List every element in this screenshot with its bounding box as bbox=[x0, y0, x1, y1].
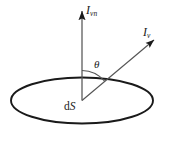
label-directional-intensity-subscript: v bbox=[147, 31, 150, 40]
label-surface-element-symbol: S bbox=[70, 100, 76, 112]
label-normal-intensity-subscript: vn bbox=[90, 9, 97, 18]
label-normal-intensity: Ivn bbox=[86, 4, 97, 18]
figure-vector-canvas bbox=[0, 0, 171, 141]
label-surface-element: dS bbox=[64, 101, 76, 113]
angle-arc bbox=[82, 71, 105, 82]
label-directional-intensity: Iv bbox=[143, 26, 150, 40]
physics-figure-radiant-intensity: Ivn Iv θ dS bbox=[0, 0, 171, 141]
label-angle-theta: θ bbox=[94, 59, 99, 70]
directional-intensity-arrow bbox=[82, 40, 154, 101]
